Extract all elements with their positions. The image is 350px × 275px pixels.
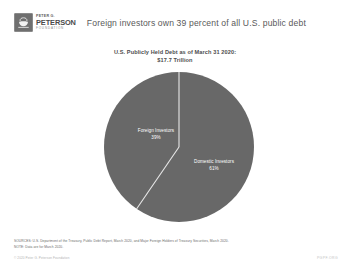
footer: © 2020 Peter G. Peterson Foundation PGPF… (14, 256, 338, 260)
copyright-text: © 2020 Peter G. Peterson Foundation (14, 256, 69, 260)
chart-subtitle: $17.7 Trillion (0, 57, 350, 65)
footnotes: SOURCES: U.S. Department of the Treasury… (14, 239, 338, 251)
logo-wordmark: PETER G. PETERSON FOUNDATION (36, 15, 76, 30)
peterson-foundation-logo: PETER G. PETERSON FOUNDATION (14, 13, 76, 32)
header: PETER G. PETERSON FOUNDATION Foreign inv… (0, 0, 350, 45)
page-title: Foreign investors own 39 percent of all … (87, 18, 306, 28)
slice-label-foreign-value: 39% (151, 135, 160, 140)
slice-label-domestic-value: 61% (209, 166, 218, 171)
pie-chart-svg (103, 71, 255, 223)
slice-label-domestic-name: Domestic Investors (194, 159, 234, 164)
slice-label-foreign-name: Foreign Investors (138, 128, 174, 133)
logo-line-three: FOUNDATION (36, 27, 76, 30)
slice-label-foreign-investors: Foreign Investors 39% (121, 128, 191, 141)
chart-title: U.S. Publicly Held Debt as of March 31 2… (0, 49, 350, 57)
org-watermark: PGPF.ORG (317, 256, 338, 260)
infographic-card: PETER G. PETERSON FOUNDATION Foreign inv… (0, 0, 350, 275)
pie-chart: Foreign Investors 39% Domestic Investors… (103, 71, 255, 223)
peterson-foundation-bowl-icon (14, 13, 33, 32)
data-note: NOTE: Data are for March 2020. (14, 245, 338, 251)
slice-label-domestic-investors: Domestic Investors 61% (175, 159, 253, 172)
chart-heading: U.S. Publicly Held Debt as of March 31 2… (0, 49, 350, 64)
